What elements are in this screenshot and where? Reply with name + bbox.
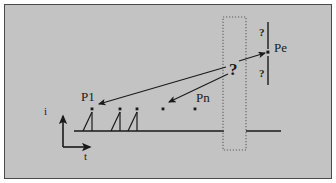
pulse-1-dot <box>91 108 94 111</box>
pulse-3 <box>128 108 138 132</box>
prediction-region-box <box>223 17 246 150</box>
pulse-3-slope <box>128 112 137 131</box>
pulse-2 <box>111 108 121 132</box>
uncertainty-above-mark: ? <box>259 27 265 38</box>
arrow-to-pe <box>239 53 265 61</box>
pulse-4 <box>162 108 165 111</box>
pulse-1 <box>83 108 93 132</box>
x-axis-label: t <box>84 151 87 162</box>
pulse-2-slope <box>111 112 120 131</box>
predicted-pulse-pe <box>266 22 269 85</box>
arrows-group <box>99 53 265 104</box>
unknown-question-mark: ? <box>229 61 238 78</box>
pulse-4-dot <box>162 108 165 111</box>
figure-root: i t P1 Pn ? ? ? Pe <box>0 0 336 183</box>
y-axis-label: i <box>44 106 47 117</box>
pulse-1-slope <box>83 112 92 131</box>
label-p1: P1 <box>81 90 95 103</box>
pe-dot <box>266 51 269 54</box>
pulse-5-dot <box>194 108 197 111</box>
pulse-2-dot <box>119 108 122 111</box>
pulse-3-dot <box>136 108 139 111</box>
label-pe: Pe <box>274 41 287 54</box>
label-pn: Pn <box>196 91 210 104</box>
figure-canvas <box>0 0 336 183</box>
uncertainty-below-mark: ? <box>259 68 265 79</box>
pulse-5 <box>194 108 197 111</box>
